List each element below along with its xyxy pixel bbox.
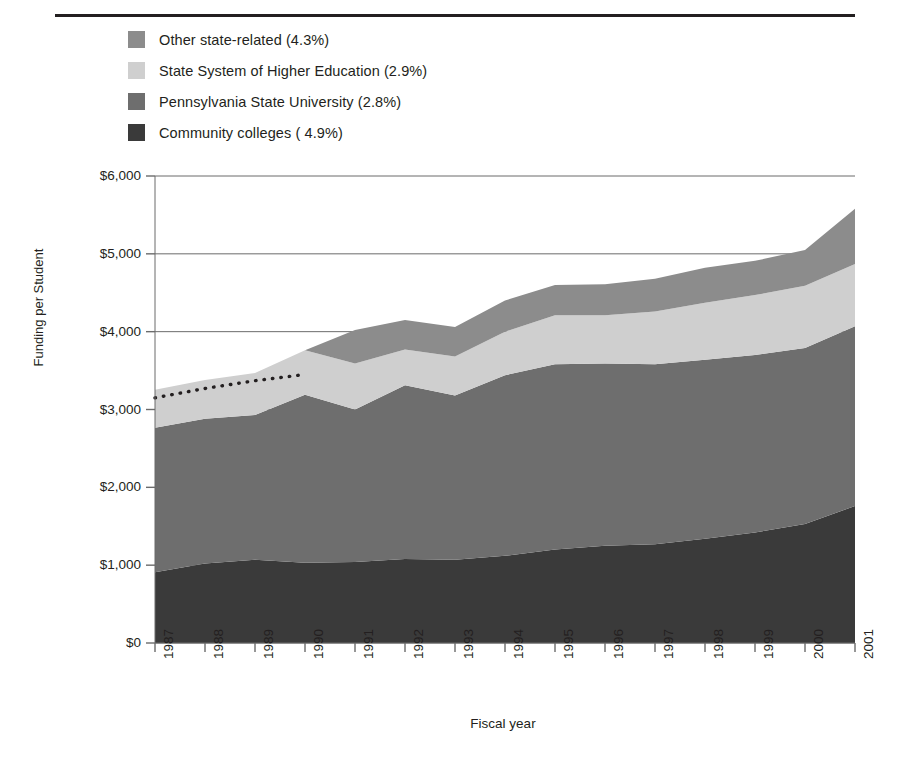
y-tick-label: $1,000	[69, 557, 141, 572]
x-tick-label: 1998	[711, 629, 726, 659]
x-tick-label: 1988	[211, 629, 226, 659]
y-tick-label: $0	[69, 635, 141, 650]
x-tick-label: 1996	[611, 629, 626, 659]
x-tick-label: 2001	[861, 629, 876, 659]
y-tick-label: $6,000	[69, 168, 141, 183]
x-tick-label: 1999	[761, 629, 776, 659]
x-tick-label: 1991	[361, 629, 376, 659]
x-tick-label: 1989	[261, 629, 276, 659]
y-tick-label: $2,000	[69, 479, 141, 494]
x-tick-label: 1997	[661, 629, 676, 659]
x-tick-label: 1994	[511, 629, 526, 659]
x-tick-label: 1995	[561, 629, 576, 659]
x-tick-label: 2000	[811, 629, 826, 659]
plot-area: Funding per Student Fiscal year $6,000$5…	[0, 0, 903, 760]
y-axis-title: Funding per Student	[31, 218, 46, 398]
x-tick-label: 1990	[311, 629, 326, 659]
y-tick-label: $3,000	[69, 402, 141, 417]
figure-stacked-area-chart: Other state-related (4.3%) State System …	[0, 0, 903, 760]
x-axis-title: Fiscal year	[403, 716, 603, 731]
x-tick-label: 1992	[411, 629, 426, 659]
x-tick-label: 1993	[461, 629, 476, 659]
y-tick-label: $4,000	[69, 324, 141, 339]
x-tick-label: 1987	[161, 629, 176, 659]
y-tick-label: $5,000	[69, 246, 141, 261]
